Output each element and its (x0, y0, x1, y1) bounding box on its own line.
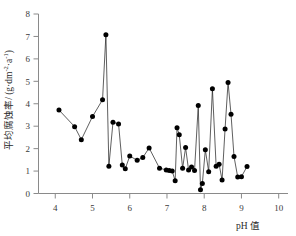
data-point (72, 124, 77, 129)
y-axis-title: 平均腐蚀率/ (g·dm-2·a-1) (0, 0, 18, 200)
data-point (79, 137, 84, 142)
x-tick-label: 5 (90, 203, 95, 213)
data-point (183, 145, 188, 150)
y-tick-label: 8 (26, 9, 31, 19)
data-point (140, 155, 145, 160)
y-axis-title-name: 平均腐蚀率 (4, 100, 14, 150)
x-tick-label: 4 (53, 203, 58, 213)
data-point (100, 97, 105, 102)
y-tick-label: 2 (26, 144, 31, 154)
y-axis-ticks: 012345678 (26, 9, 39, 199)
data-series-points (56, 32, 249, 192)
x-tick-label: 8 (202, 203, 207, 213)
x-axis-ticks: 45678910 (53, 194, 284, 214)
data-point (217, 162, 222, 167)
data-point (192, 168, 197, 173)
data-point (232, 154, 237, 159)
data-point (203, 147, 208, 152)
data-point (116, 121, 121, 126)
y-tick-label: 0 (26, 189, 31, 199)
y-axis-title-sep: / (g·dm (4, 72, 14, 100)
data-point (220, 178, 225, 183)
data-point (175, 125, 180, 130)
data-point (229, 112, 234, 117)
y-axis-title-label: 平均腐蚀率/ (g·dm-2·a-1) (1, 50, 15, 150)
data-point (103, 32, 108, 37)
data-point (245, 164, 250, 169)
y-axis-title-mid: ·a (4, 59, 14, 66)
y-tick-label: 5 (26, 77, 31, 87)
y-tick-label: 7 (26, 32, 31, 42)
data-point (106, 164, 111, 169)
y-axis-title-close: ) (4, 50, 14, 53)
x-tick-label: 6 (127, 203, 132, 213)
data-point (226, 80, 231, 85)
data-point (157, 166, 162, 171)
data-point (135, 158, 140, 163)
data-point (180, 166, 185, 171)
data-point (170, 169, 175, 174)
y-tick-label: 6 (26, 54, 31, 64)
corrosion-rate-vs-ph-chart: 012345678 45678910 平均腐蚀率/ (g·dm-2·a-1) p… (0, 0, 296, 236)
x-tick-label: 7 (165, 203, 170, 213)
data-point (210, 86, 215, 91)
y-axis-title-exp1: -2 (2, 66, 9, 71)
y-tick-label: 4 (26, 99, 31, 109)
data-point (196, 103, 201, 108)
data-point (110, 120, 115, 125)
x-axis-title: pH 值 (236, 218, 260, 232)
data-point (173, 178, 178, 183)
data-point (177, 132, 182, 137)
y-tick-label: 1 (26, 166, 31, 176)
data-point (147, 145, 152, 150)
x-tick-label: 9 (239, 203, 244, 213)
data-point (123, 166, 128, 171)
data-point (127, 154, 132, 159)
y-axis-title-exp2: -1 (2, 53, 9, 58)
data-point (200, 181, 205, 186)
data-point (239, 174, 244, 179)
data-point (90, 114, 95, 119)
chart-canvas: 012345678 45678910 (0, 0, 296, 236)
data-point (56, 108, 61, 113)
y-tick-label: 3 (26, 121, 31, 131)
axes (39, 14, 289, 194)
x-tick-label: 10 (274, 203, 284, 213)
data-point (198, 187, 203, 192)
data-point (206, 169, 211, 174)
data-point (223, 126, 228, 131)
